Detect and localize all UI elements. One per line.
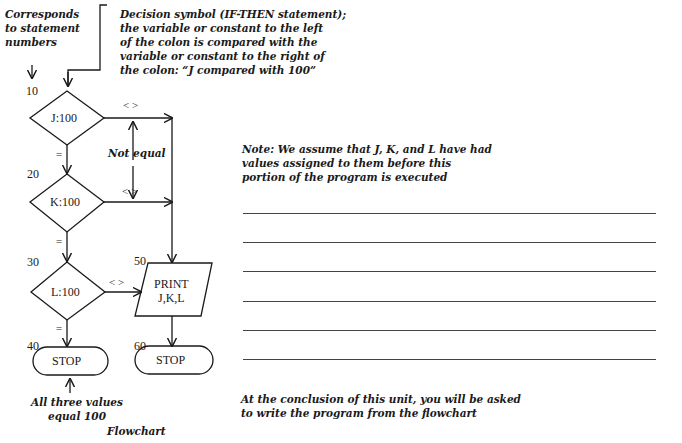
- decision-k-label: K:100: [50, 195, 80, 210]
- answer-line-6[interactable]: [243, 359, 656, 360]
- note-line: Corresponds: [5, 7, 80, 21]
- note-line: the colon: “J compared with 100”: [120, 63, 346, 77]
- answer-line-4[interactable]: [243, 301, 656, 302]
- conclusion-note: At the conclusion of this unit, you will…: [241, 392, 521, 420]
- statement-number-30: 30: [27, 255, 39, 270]
- note-line: Note: We assume that J, K, and L have ha…: [242, 142, 492, 156]
- not-equal-annotation: Not equal: [108, 146, 166, 160]
- note-line: to write the program from the flowchart: [241, 406, 521, 420]
- note-line: of the colon is compared with the: [120, 35, 346, 49]
- stop-60-label: STOP: [156, 353, 185, 368]
- note-line: to statement: [5, 21, 80, 35]
- answer-line-5[interactable]: [243, 330, 656, 331]
- assumption-note: Note: We assume that J, K, and L have ha…: [242, 142, 492, 184]
- print-line: PRINT: [154, 277, 189, 291]
- answer-line-3[interactable]: [243, 271, 656, 272]
- note-line: All three values: [31, 395, 123, 409]
- note-line: numbers: [5, 35, 80, 49]
- statement-number-50: 50: [134, 254, 146, 269]
- print-label: PRINT J,K,L: [154, 277, 189, 305]
- statement-numbers-note: Corresponds to statement numbers: [5, 7, 80, 49]
- statement-number-60: 60: [134, 339, 146, 354]
- note-line: values assigned to them before this: [242, 156, 492, 170]
- note-line: the variable or constant to the left: [120, 21, 346, 35]
- flowchart-caption: Flowchart: [107, 424, 166, 438]
- edge-label-equal-30: =: [56, 322, 62, 334]
- all-equal-annotation: All three values equal 100: [31, 395, 123, 423]
- note-line: At the conclusion of this unit, you will…: [241, 392, 521, 406]
- stop-40-label: STOP: [52, 354, 81, 369]
- edge-label-not-equal-10: < >: [123, 99, 138, 111]
- statement-number-40: 40: [27, 339, 39, 354]
- edge-label-not-equal-20: < >: [122, 185, 137, 197]
- decision-j-label: J:100: [51, 111, 77, 126]
- answer-line-2[interactable]: [243, 242, 656, 243]
- edge-label-equal-20: =: [56, 235, 62, 247]
- answer-line-1[interactable]: [243, 213, 656, 214]
- edge-label-equal-10: =: [56, 148, 62, 160]
- statement-number-10: 10: [26, 84, 38, 99]
- print-line: J,K,L: [154, 291, 189, 305]
- decision-l-label: L:100: [51, 285, 80, 300]
- note-line: variable or constant to the right of: [120, 49, 346, 63]
- decision-symbol-note: Decision symbol (IF-THEN statement); the…: [120, 7, 346, 77]
- note-line: portion of the program is executed: [242, 170, 492, 184]
- note-line: Decision symbol (IF-THEN statement);: [120, 7, 346, 21]
- edge-label-not-equal-30: < >: [109, 276, 124, 288]
- statement-number-20: 20: [27, 167, 39, 182]
- note-line: equal 100: [31, 409, 123, 423]
